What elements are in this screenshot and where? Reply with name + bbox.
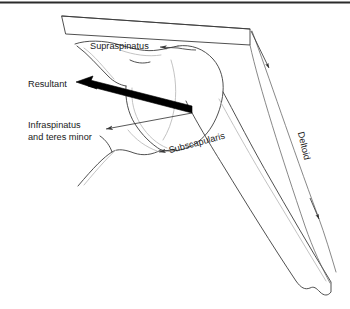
label-infraspinatus: Infraspinatus: [28, 120, 81, 130]
deltoid-leader: [251, 31, 269, 68]
bone-outlines: [62, 16, 331, 295]
deltoid-outline: [250, 31, 336, 283]
surgical-neck-line: [128, 130, 157, 151]
label-teres-minor: and teres minor: [28, 132, 92, 142]
greater-tuberosity-notch: [130, 60, 150, 63]
scapula-border-outline: [78, 150, 161, 186]
deltoid-distal-leader: [310, 198, 319, 219]
scapula-inner-edge: [84, 150, 116, 185]
shoulder-force-diagram: Supraspinatus Resultant Infraspinatus an…: [0, 0, 350, 309]
label-supraspinatus: Supraspinatus: [90, 41, 149, 51]
scapula-neck-edge: [100, 136, 112, 152]
label-resultant: Resultant: [28, 79, 67, 89]
infraspinatus-leader: [106, 113, 192, 129]
label-deltoid: Deltoid: [296, 131, 313, 161]
acromion-upper-edge: [62, 16, 250, 29]
humerus-shaft-outline: [186, 92, 331, 295]
resultant-vector: [76, 76, 192, 113]
faint-outlines: [84, 48, 326, 281]
diagram-canvas: Supraspinatus Resultant Infraspinatus an…: [0, 0, 350, 309]
label-subscapularis: Subscapularis: [168, 131, 227, 156]
supraspinatus-leader: [160, 47, 178, 48]
deltoid-outer-edge: [252, 31, 336, 272]
supraspinatus-leader-tail: [178, 48, 196, 50]
supraspinatus-inner-edge: [84, 48, 114, 79]
